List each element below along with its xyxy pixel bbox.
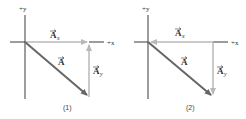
- svg-text:A: A: [50, 30, 57, 40]
- svg-text:x: x: [181, 33, 185, 39]
- y-axis-label: +y: [142, 5, 150, 13]
- x-axis-label: +x: [107, 39, 115, 47]
- label-a: A: [58, 57, 65, 68]
- svg-text:A: A: [58, 57, 65, 67]
- svg-text:x: x: [56, 35, 60, 41]
- label-ax: A x: [50, 30, 60, 42]
- y-axis-label: +y: [19, 5, 27, 13]
- label-ay: A y: [93, 66, 103, 78]
- caption: (1): [63, 104, 72, 112]
- panel-2: +y +x A x A A y (2): [134, 5, 239, 112]
- svg-text:A: A: [175, 28, 182, 38]
- label-ay: A y: [217, 66, 227, 78]
- svg-text:A: A: [93, 66, 100, 76]
- svg-text:A: A: [217, 66, 224, 76]
- caption: (2): [186, 104, 195, 112]
- svg-text:y: y: [223, 71, 227, 77]
- label-a: A: [181, 57, 188, 68]
- x-axis-label: +x: [231, 39, 239, 47]
- vector-a: [25, 42, 87, 95]
- vector-components-diagram: +y +x A x A A y (1) +y +x A x: [0, 0, 246, 119]
- label-ax: A x: [175, 28, 185, 40]
- svg-text:y: y: [99, 71, 103, 77]
- svg-text:A: A: [181, 57, 188, 67]
- vector-a: [148, 42, 211, 95]
- panel-1: +y +x A x A A y (1): [10, 5, 115, 112]
